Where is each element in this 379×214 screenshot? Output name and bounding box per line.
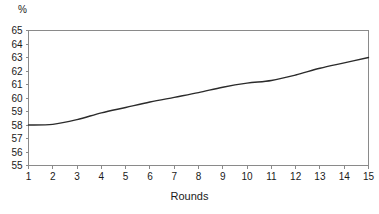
x-axis-tick-label: 14: [339, 171, 351, 182]
axis-frame: [29, 31, 369, 166]
x-axis-title: Rounds: [0, 190, 379, 203]
y-axis-tick-label: 55: [11, 160, 23, 171]
y-axis-tick-label: 58: [11, 120, 23, 131]
y-axis-tick-label: 65: [11, 25, 23, 36]
data-series-line: [29, 58, 369, 126]
x-axis-tick-label: 5: [123, 171, 129, 182]
y-axis-tick-label: 62: [11, 66, 23, 77]
x-axis-tick-labels: 123456789101112131415: [26, 171, 375, 182]
x-axis-tick-label: 8: [196, 171, 202, 182]
y-axis-tick-label: 60: [11, 93, 23, 104]
x-axis-tick-label: 13: [314, 171, 326, 182]
x-axis-tick-label: 3: [74, 171, 80, 182]
x-axis-tick-label: 7: [171, 171, 177, 182]
y-axis-tick-labels: 6564636261605958575655: [11, 25, 23, 171]
x-axis-tick-label: 2: [50, 171, 56, 182]
y-axis-tick-label: 59: [11, 106, 23, 117]
y-axis-tick-label: 63: [11, 52, 23, 63]
x-axis-tick-label: 12: [290, 171, 302, 182]
x-axis-tick-label: 11: [266, 171, 277, 182]
y-axis-tick-label: 56: [11, 147, 23, 158]
x-axis-tick-label: 6: [147, 171, 153, 182]
y-axis-tick-label: 57: [11, 133, 23, 144]
y-axis-tick-label: 64: [11, 39, 23, 50]
x-axis-tick-label: 15: [363, 171, 375, 182]
x-axis-tick-label: 9: [220, 171, 226, 182]
x-axis-tick-label: 1: [26, 171, 32, 182]
y-axis-unit-label: %: [18, 4, 27, 16]
x-axis-tick-label: 10: [242, 171, 254, 182]
x-axis-tick-label: 4: [99, 171, 105, 182]
line-chart-plot: 6564636261605958575655 12345678910111213…: [0, 0, 379, 214]
y-axis-tick-label: 61: [11, 79, 23, 90]
chart-figure: % 6564636261605958575655 123456789101112…: [0, 0, 379, 214]
